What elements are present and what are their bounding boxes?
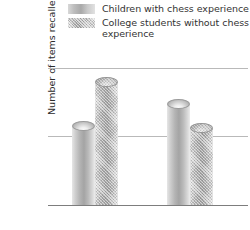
legend-item-children: Children with chess experience — [68, 3, 250, 15]
bar-cap — [72, 121, 95, 131]
x-axis-line — [48, 205, 248, 206]
bar-chess-pieces-children — [167, 99, 190, 205]
legend-label-college: College students without chess experienc… — [102, 17, 250, 40]
bar-random-numbers-college — [95, 77, 118, 205]
legend-label-children: Children with chess experience — [102, 3, 249, 15]
bar-cap — [190, 123, 213, 133]
bar-random-numbers-children — [72, 121, 95, 205]
bar-body — [72, 126, 95, 205]
bar-chess-pieces-college — [190, 123, 213, 205]
bar-cap — [167, 99, 190, 109]
bar-body — [95, 82, 118, 205]
gridline-10 — [48, 68, 248, 69]
chart-legend: Children with chess experience College s… — [68, 3, 250, 42]
y-axis-title: Number of items recalled — [46, 0, 57, 115]
bar-cap — [95, 77, 118, 87]
bar-chart: Children with chess experience College s… — [0, 0, 250, 230]
plot-area: Number of items recalled 10 5 0 Random — [48, 68, 248, 205]
legend-item-college: College students without chess experienc… — [68, 17, 250, 40]
bar-body — [167, 104, 190, 205]
legend-swatch-college — [68, 18, 95, 28]
bar-body — [190, 128, 213, 205]
legend-swatch-children — [68, 4, 95, 14]
